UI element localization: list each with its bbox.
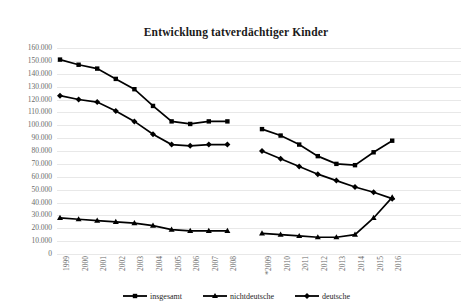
data-point-marker xyxy=(334,162,338,166)
plot-area xyxy=(57,48,461,254)
x-axis-tick-label: 2012 xyxy=(321,256,329,271)
y-axis-tick-labels: 160.000150.000140.000130.000120.000110.0… xyxy=(0,48,52,254)
y-axis-tick-label: 160.000 xyxy=(0,44,52,52)
x-axis-tick-label: 1999 xyxy=(63,256,71,271)
legend-label: insgesamt xyxy=(150,292,182,301)
series-insgesamt xyxy=(58,57,395,167)
data-point-marker xyxy=(95,66,99,70)
x-axis-tick-label: 2013 xyxy=(339,256,347,271)
data-point-marker xyxy=(297,142,301,146)
x-axis-tick-label: 2007 xyxy=(212,256,220,271)
x-axis-tick-label: 2008 xyxy=(230,256,238,271)
legend-marker-diamond-icon xyxy=(294,291,320,301)
data-point-marker xyxy=(315,171,321,177)
data-point-marker xyxy=(259,148,265,154)
y-axis-tick-label: 100.000 xyxy=(0,122,52,130)
x-axis-tick-label: 2003 xyxy=(137,256,145,271)
x-axis-tick-label: 2011 xyxy=(302,256,310,271)
y-axis-tick-label: 150.000 xyxy=(0,57,52,65)
x-axis-tick-label: 2016 xyxy=(395,256,403,271)
data-point-marker xyxy=(390,139,394,143)
y-axis-tick-label: 50.000 xyxy=(0,186,52,194)
data-point-marker xyxy=(206,142,212,148)
y-axis-tick-label: 120.000 xyxy=(0,96,52,104)
y-axis-tick-label: 0 xyxy=(0,250,52,258)
x-axis-tick-label: 2006 xyxy=(193,256,201,271)
data-point-marker xyxy=(132,87,136,91)
data-point-marker xyxy=(151,104,155,108)
data-point-marker xyxy=(114,77,118,81)
y-axis-tick-label: 90.000 xyxy=(0,134,52,142)
series-line xyxy=(60,96,227,146)
chart-container: Entwicklung tatverdächtiger Kinder 160.0… xyxy=(0,0,472,308)
chart-title: Entwicklung tatverdächtiger Kinder xyxy=(0,26,472,38)
data-point-marker xyxy=(260,127,264,131)
legend-item-deutsche[interactable]: deutsche xyxy=(294,291,350,301)
data-point-marker xyxy=(58,57,62,61)
data-point-marker xyxy=(278,156,284,162)
data-point-marker xyxy=(225,119,229,123)
y-axis-tick-label: 130.000 xyxy=(0,83,52,91)
y-axis-tick-label: 10.000 xyxy=(0,237,52,245)
data-point-marker xyxy=(57,93,63,99)
x-axis-tick-label: 2014 xyxy=(358,256,366,271)
data-point-marker xyxy=(296,163,302,169)
data-point-marker xyxy=(353,163,357,167)
legend-label: nichtdeutsche xyxy=(230,292,274,301)
legend-marker-triangle-icon xyxy=(202,291,228,301)
data-point-marker xyxy=(371,189,377,195)
y-axis-tick-label: 60.000 xyxy=(0,173,52,181)
data-point-marker xyxy=(371,150,375,154)
x-axis-tick-label: *2009 xyxy=(265,256,273,275)
series-line xyxy=(60,218,227,231)
data-point-marker xyxy=(352,184,358,190)
y-axis-tick-label: 30.000 xyxy=(0,212,52,220)
data-point-marker xyxy=(316,154,320,158)
data-point-marker xyxy=(76,97,82,103)
gridline xyxy=(57,254,461,255)
data-point-marker xyxy=(76,63,80,67)
y-axis-tick-label: 40.000 xyxy=(0,199,52,207)
data-point-marker xyxy=(207,119,211,123)
data-point-marker xyxy=(188,122,192,126)
data-point-marker xyxy=(333,178,339,184)
x-axis-tick-label: 2010 xyxy=(284,256,292,271)
x-axis-tick-labels: 1999200020012002200320042005200620072008… xyxy=(57,256,461,296)
y-axis-tick-label: 140.000 xyxy=(0,70,52,78)
data-point-marker xyxy=(278,133,282,137)
legend-label: deutsche xyxy=(322,292,350,301)
legend-marker-square-icon xyxy=(122,291,148,301)
x-axis-tick-label: 2005 xyxy=(175,256,183,271)
legend-item-nichtdeutsche[interactable]: nichtdeutsche xyxy=(202,291,274,301)
y-axis-tick-label: 20.000 xyxy=(0,225,52,233)
x-axis-tick-label: 2002 xyxy=(119,256,127,271)
data-point-marker xyxy=(94,99,100,105)
x-axis-tick-label: 2004 xyxy=(156,256,164,271)
series-nichtdeutsche xyxy=(57,194,395,239)
series-deutsche xyxy=(57,93,395,202)
data-point-marker xyxy=(187,143,193,149)
x-axis-tick-label: 2001 xyxy=(100,256,108,271)
series-lines xyxy=(57,48,461,254)
data-point-marker xyxy=(169,119,173,123)
chart-legend: insgesamtnichtdeutschedeutsche xyxy=(0,291,472,301)
x-axis-tick-label: 2000 xyxy=(82,256,90,271)
series-line xyxy=(60,60,227,124)
data-point-marker xyxy=(304,293,310,299)
legend-item-insgesamt[interactable]: insgesamt xyxy=(122,291,182,301)
x-axis-tick-label: 2015 xyxy=(377,256,385,271)
y-axis-tick-label: 70.000 xyxy=(0,160,52,168)
y-axis-tick-label: 110.000 xyxy=(0,109,52,117)
data-point-marker xyxy=(224,142,230,148)
data-point-marker xyxy=(133,294,137,298)
y-axis-tick-label: 80.000 xyxy=(0,147,52,155)
